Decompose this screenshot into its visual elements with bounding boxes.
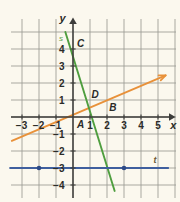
coordinate-plane: −3−2−1123454321−1−2−3−4xystABCD — [0, 0, 180, 202]
y-tick-label: −4 — [53, 180, 65, 191]
x-tick-label: 4 — [138, 120, 144, 131]
x-tick-label: −2 — [33, 120, 45, 131]
x-tick-label: 5 — [155, 120, 161, 131]
y-axis-label: y — [58, 12, 66, 24]
y-tick-label: −1 — [53, 129, 65, 140]
point-label-b: B — [109, 102, 116, 113]
y-tick-label: 2 — [59, 78, 65, 89]
y-tick-label: −3 — [53, 163, 65, 174]
y-tick-label: 4 — [59, 44, 65, 55]
y-tick-label: 3 — [59, 61, 65, 72]
point-label-d: D — [91, 89, 98, 100]
x-tick-label: −3 — [16, 120, 28, 131]
point-on-t-right — [122, 166, 127, 171]
point-label-a: A — [76, 119, 84, 130]
point-on-t-left — [37, 166, 42, 171]
figure-canvas: …………… −3−2−1123454321−1−2−3−4xystABCD — [0, 0, 180, 202]
x-tick-label: 2 — [104, 120, 110, 131]
line-label-s: s — [59, 34, 63, 43]
x-tick-label: 3 — [121, 120, 127, 131]
x-tick-label: 1 — [87, 120, 93, 131]
x-axis-label: x — [169, 119, 177, 131]
y-tick-label: −2 — [53, 146, 65, 157]
point-label-c: C — [77, 38, 85, 49]
y-tick-label: 1 — [59, 95, 65, 106]
